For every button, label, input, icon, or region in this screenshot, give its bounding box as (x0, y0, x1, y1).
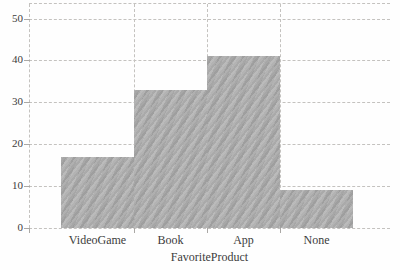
y-tick-label-30: 30 (0, 95, 23, 108)
y-tick-10 (24, 186, 30, 187)
bar-book (134, 90, 207, 228)
gridline-y-50 (29, 19, 390, 20)
y-tick-label-0: 0 (0, 221, 23, 234)
y-tick-label-20: 20 (0, 137, 23, 150)
y-tick-50 (24, 19, 30, 20)
y-tick-40 (24, 60, 30, 61)
y-tick-30 (24, 102, 30, 103)
bar-videogame (61, 157, 134, 228)
y-tick-label-40: 40 (0, 53, 23, 66)
x-category-label-videogame: VideoGame (61, 233, 134, 247)
bar-none (280, 190, 353, 228)
x-axis-title: FavoriteProduct (29, 250, 390, 264)
x-category-label-app: App (207, 233, 280, 247)
gridline-y-0 (29, 228, 390, 229)
plot-area (29, 3, 390, 228)
y-axis-line (29, 4, 30, 228)
bar-chart: FavoriteProduct 01020304050VideoGameBook… (0, 0, 400, 270)
bar-app (207, 56, 280, 228)
x-category-label-none: None (280, 233, 353, 247)
x-tick-axis-corner (29, 228, 30, 233)
x-category-label-book: Book (134, 233, 207, 247)
y-tick-label-50: 50 (0, 12, 23, 25)
y-tick-20 (24, 144, 30, 145)
y-tick-label-10: 10 (0, 179, 23, 192)
